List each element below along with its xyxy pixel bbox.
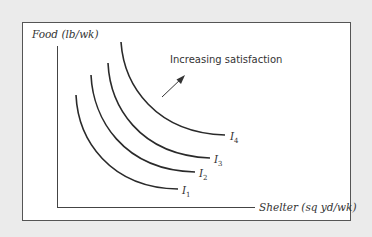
chart-figure: Food (lb/wk) Shelter (sq yd/wk) I 1 I 2 … — [0, 0, 372, 237]
svg-text:1: 1 — [186, 191, 190, 199]
chart-svg: Food (lb/wk) Shelter (sq yd/wk) I 1 I 2 … — [0, 0, 372, 237]
svg-text:2: 2 — [203, 174, 207, 182]
svg-text:4: 4 — [234, 137, 239, 145]
x-axis-label: Shelter (sq yd/wk) — [259, 201, 357, 213]
increasing-satisfaction-label: Increasing satisfaction — [170, 54, 282, 65]
y-axis-label: Food (lb/wk) — [31, 28, 99, 40]
svg-text:3: 3 — [218, 160, 222, 168]
